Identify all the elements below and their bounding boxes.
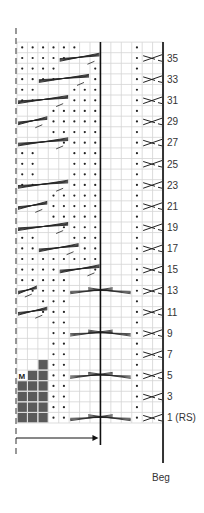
purl-dot <box>63 131 65 133</box>
purl-dot <box>32 46 34 48</box>
cable-stroke <box>87 273 94 276</box>
cable-stroke <box>35 125 42 128</box>
purl-dot <box>52 268 54 270</box>
purl-dot <box>94 78 96 80</box>
cross-stroke <box>158 314 162 315</box>
gray-cell <box>28 402 37 412</box>
gray-cell <box>18 402 27 412</box>
purl-dot <box>63 226 65 228</box>
gray-cell <box>38 402 47 412</box>
purl-dot <box>63 216 65 218</box>
purl-dot <box>136 57 138 59</box>
purl-dot <box>94 205 96 207</box>
cable-stroke <box>56 188 63 191</box>
purl-dot <box>42 57 44 59</box>
purl-dot <box>32 163 34 165</box>
purl-dot <box>52 343 54 345</box>
purl-dot <box>32 268 34 270</box>
purl-dot <box>52 258 54 260</box>
purl-dot <box>136 311 138 313</box>
cross-stroke <box>158 251 162 252</box>
purl-dot <box>94 237 96 239</box>
purl-dot <box>63 46 65 48</box>
purl-dot <box>21 46 23 48</box>
purl-dot <box>32 152 34 154</box>
purl-dot <box>73 152 75 154</box>
purl-dot <box>73 110 75 112</box>
purl-dot <box>136 374 138 376</box>
row-label: 35 <box>167 54 178 64</box>
purl-dot <box>84 184 86 186</box>
purl-dot <box>42 290 44 292</box>
purl-dot <box>94 131 96 133</box>
purl-dot <box>136 406 138 408</box>
purl-dot <box>32 78 34 80</box>
row-label: 23 <box>167 181 178 191</box>
purl-dot <box>52 385 54 387</box>
purl-dot <box>136 321 138 323</box>
purl-dot <box>63 385 65 387</box>
gray-cell <box>28 371 37 381</box>
purl-dot <box>52 321 54 323</box>
purl-dot <box>84 163 86 165</box>
row-label: 9 <box>167 329 173 339</box>
cable-stroke <box>35 209 42 212</box>
purl-dot <box>84 194 86 196</box>
row-label: 21 <box>167 202 178 212</box>
row-label: 7 <box>167 350 173 360</box>
purl-dot <box>136 205 138 207</box>
cable-stroke <box>35 315 42 318</box>
row-label: 27 <box>167 138 178 148</box>
purl-dot <box>94 226 96 228</box>
purl-dot <box>84 216 86 218</box>
cross-stroke <box>158 378 162 379</box>
purl-dot <box>84 99 86 101</box>
purl-dot <box>52 194 54 196</box>
purl-dot <box>63 364 65 366</box>
purl-dot <box>73 46 75 48</box>
purl-dot <box>136 163 138 165</box>
purl-dot <box>52 110 54 112</box>
purl-dot <box>63 279 65 281</box>
purl-dot <box>94 152 96 154</box>
cross-stroke <box>158 272 162 273</box>
purl-dot <box>73 89 75 91</box>
purl-dot <box>63 321 65 323</box>
purl-dot <box>63 110 65 112</box>
purl-dot <box>136 46 138 48</box>
purl-dot <box>73 226 75 228</box>
purl-dot <box>42 258 44 260</box>
purl-dot <box>136 332 138 334</box>
row-label: 19 <box>167 223 178 233</box>
purl-dot <box>136 247 138 249</box>
purl-dot <box>63 300 65 302</box>
purl-dot <box>21 163 23 165</box>
gray-cell <box>28 413 37 423</box>
row-label: 15 <box>167 265 178 275</box>
marker-m: M <box>19 372 26 381</box>
purl-dot <box>136 67 138 69</box>
purl-dot <box>73 194 75 196</box>
purl-dot <box>136 279 138 281</box>
purl-dot <box>136 152 138 154</box>
purl-dot <box>42 67 44 69</box>
purl-dot <box>94 258 96 260</box>
purl-dot <box>136 258 138 260</box>
purl-dot <box>32 173 34 175</box>
purl-dot <box>42 311 44 313</box>
gray-cell <box>28 381 37 391</box>
purl-dot <box>84 152 86 154</box>
purl-dot <box>63 142 65 144</box>
purl-dot <box>136 290 138 292</box>
beg-label: Beg <box>152 472 170 483</box>
purl-dot <box>21 89 23 91</box>
purl-dot <box>52 395 54 397</box>
gray-cell <box>38 371 47 381</box>
purl-dot <box>63 311 65 313</box>
cross-stroke <box>158 335 162 336</box>
purl-dot <box>63 205 65 207</box>
cable-stroke <box>77 82 84 85</box>
purl-dot <box>73 99 75 101</box>
purl-dot <box>21 57 23 59</box>
purl-dot <box>94 173 96 175</box>
